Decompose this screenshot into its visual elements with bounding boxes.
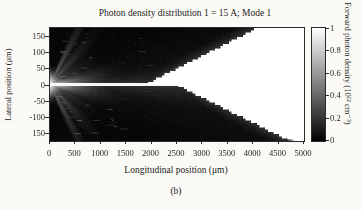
x-tick-mark: [74, 141, 75, 144]
y-tick-label: 50: [19, 63, 45, 73]
y-tick-mark: [45, 117, 49, 118]
chart-title: Photon density distribution 1 = 15 A; Mo…: [55, 8, 315, 18]
colorbar-tick-mark: [326, 95, 329, 96]
colorbar-tick-label: 1: [330, 23, 352, 33]
x-axis-label: Longitudinal position (μm): [49, 165, 303, 175]
x-tick-mark: [49, 141, 50, 144]
y-tick-mark: [45, 85, 49, 86]
x-tick-mark: [201, 141, 202, 144]
y-tick-mark: [45, 133, 49, 134]
x-tick-mark: [176, 141, 177, 144]
colorbar-tick-label: 0.2: [330, 113, 352, 123]
figure-panel-b: Photon density distribution 1 = 15 A; Mo…: [0, 0, 362, 210]
colorbar-tick-mark: [326, 118, 329, 119]
colorbar-gradient: [311, 27, 326, 142]
colorbar-tick-label: 0.6: [330, 68, 352, 78]
x-tick-mark: [100, 141, 101, 144]
y-tick-label: 150: [19, 31, 45, 41]
x-tick-mark: [303, 141, 304, 144]
x-tick-mark: [125, 141, 126, 144]
subfigure-caption: (b): [49, 186, 303, 196]
x-tick-mark: [227, 141, 228, 144]
y-tick-label: 150: [19, 128, 45, 138]
y-tick-mark: [45, 68, 49, 69]
y-tick-mark: [45, 52, 49, 53]
y-tick-label: -50: [19, 96, 45, 106]
y-axis-label: Lateral position (μm): [3, 27, 13, 142]
colorbar-tick-label: 0: [330, 135, 352, 145]
x-tick-mark: [151, 141, 152, 144]
y-tick-mark: [45, 36, 49, 37]
heatmap-canvas: [50, 28, 304, 141]
y-tick-label: 100: [19, 47, 45, 57]
colorbar-tick-label: 0.8: [330, 45, 352, 55]
x-tick-mark: [278, 141, 279, 144]
x-tick-mark: [252, 141, 253, 144]
colorbar-tick-mark: [326, 140, 329, 141]
colorbar-tick-label: 0.4: [330, 90, 352, 100]
y-tick-label: -100: [19, 112, 45, 122]
colorbar-tick-mark: [326, 28, 329, 29]
colorbar-tick-mark: [326, 73, 329, 74]
x-tick-label: 5000: [285, 148, 321, 158]
y-tick-mark: [45, 101, 49, 102]
y-tick-label: 0: [19, 80, 45, 90]
heatmap-plot: [49, 27, 305, 142]
colorbar-tick-mark: [326, 50, 329, 51]
